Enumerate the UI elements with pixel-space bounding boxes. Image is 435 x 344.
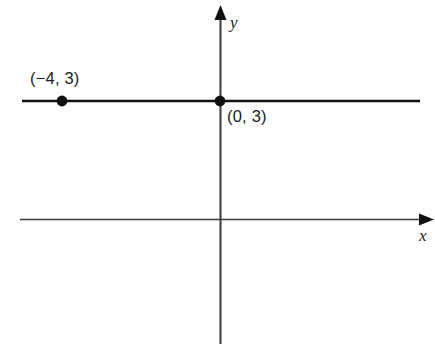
- arrow-up-icon: [215, 5, 227, 20]
- coordinate-plane-figure: (−4, 3) (0, 3) y x: [0, 0, 435, 344]
- data-point-marker: [57, 96, 68, 107]
- y-axis-label: y: [230, 14, 238, 31]
- data-point-marker: [215, 96, 226, 107]
- graph-canvas: [0, 0, 435, 344]
- data-point-label: (−4, 3): [30, 70, 80, 87]
- arrow-right-icon: [419, 214, 434, 226]
- data-point-label: (0, 3): [227, 108, 267, 125]
- x-axis-label: x: [419, 227, 427, 244]
